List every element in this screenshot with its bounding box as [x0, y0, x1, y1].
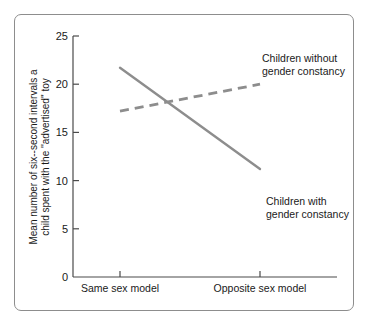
annotation-without-line-2: gender constancy	[262, 65, 346, 77]
y-tick-label-15: 15	[56, 126, 68, 138]
y-tick-label-25: 25	[56, 30, 68, 42]
x-category-label-same-sex-model: Same sex model	[81, 282, 159, 294]
y-axis-title-line-2: child spent with the ''advertised'' toy	[40, 78, 51, 236]
y-tick-label-5: 5	[62, 223, 68, 235]
x-axis-ticks	[120, 271, 260, 277]
annotation-with-line-2: gender constancy	[266, 208, 350, 220]
x-axis-category-labels: Same sex model Opposite sex model	[81, 282, 307, 294]
annotation-without-line-1: Children without	[262, 52, 337, 64]
annotation-with-line-1: Children with	[266, 195, 327, 207]
y-axis-title-line-1: Mean number of six--second intervals a	[28, 69, 39, 245]
annotation-children-without-gender-constancy: Children without gender constancy	[262, 52, 346, 77]
y-axis-ticks	[73, 36, 79, 229]
y-tick-label-0: 0	[62, 271, 68, 283]
y-tick-label-20: 20	[56, 78, 68, 90]
x-category-label-opposite-sex-model: Opposite sex model	[214, 282, 307, 294]
y-axis-tick-labels: 25 20 15 10 5 0	[56, 30, 68, 283]
y-tick-label-10: 10	[56, 175, 68, 187]
series-line-children-without-gender-constancy	[120, 84, 260, 111]
y-axis-title: Mean number of six--second intervals a c…	[28, 69, 51, 245]
line-chart: 25 20 15 10 5 0 Same sex model Opposite …	[0, 0, 368, 327]
annotation-children-with-gender-constancy: Children with gender constancy	[266, 195, 350, 220]
series-line-children-with-gender-constancy	[120, 68, 260, 169]
